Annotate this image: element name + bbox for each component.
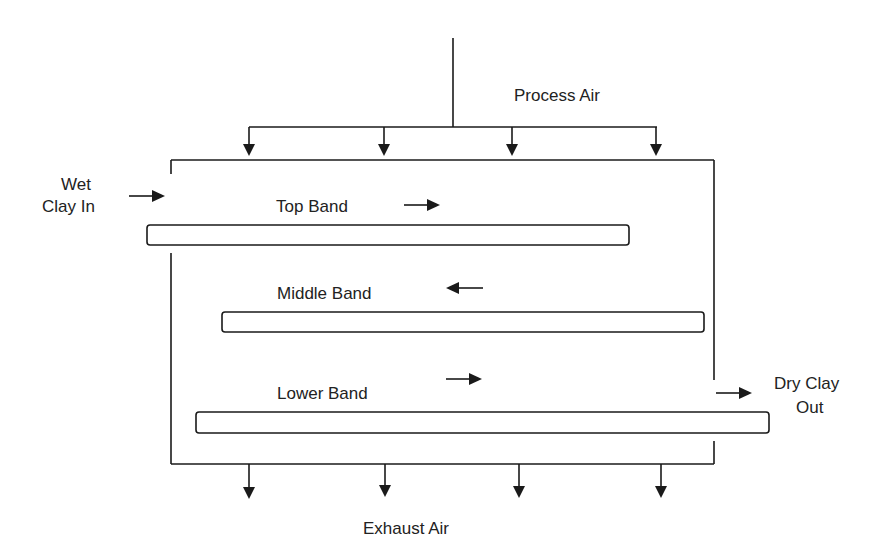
middle-band — [222, 312, 704, 332]
exhaust-air-arrow-2 — [379, 464, 391, 497]
middle-band-direction-arrow-left-icon — [446, 282, 483, 294]
lower-band — [196, 412, 769, 433]
process-air-label: Process Air — [514, 86, 600, 105]
top-band-label: Top Band — [276, 197, 348, 216]
middle-band-label: Middle Band — [277, 284, 372, 303]
exhaust-air-arrow-3 — [513, 464, 525, 498]
wet-clay-label-line2: Clay In — [42, 197, 95, 216]
process-air-arrow-3 — [506, 127, 518, 156]
lower-band-label: Lower Band — [277, 384, 368, 403]
clay-dryer-diagram: Process Air Top Band Middle Band Lower B… — [0, 0, 891, 559]
process-air-arrow-4 — [650, 127, 662, 156]
exhaust-air-arrow-1 — [243, 464, 255, 499]
top-band — [147, 225, 629, 245]
dry-clay-label-line2: Out — [796, 398, 824, 417]
wet-clay-label-line1: Wet — [61, 175, 91, 194]
dry-clay-label-line1: Dry Clay — [774, 374, 840, 393]
wet-clay-inlet-arrow-icon — [129, 190, 165, 202]
process-air-arrow-2 — [378, 127, 390, 156]
exhaust-air-label: Exhaust Air — [363, 519, 449, 538]
top-band-direction-arrow-right-icon — [404, 199, 440, 211]
lower-band-direction-arrow-right-icon — [446, 373, 482, 385]
exhaust-air-arrow-4 — [655, 464, 667, 498]
exhaust-air-outlets — [243, 464, 667, 499]
process-air-arrow-1 — [243, 127, 255, 156]
dry-clay-outlet-arrow-icon — [716, 387, 752, 399]
